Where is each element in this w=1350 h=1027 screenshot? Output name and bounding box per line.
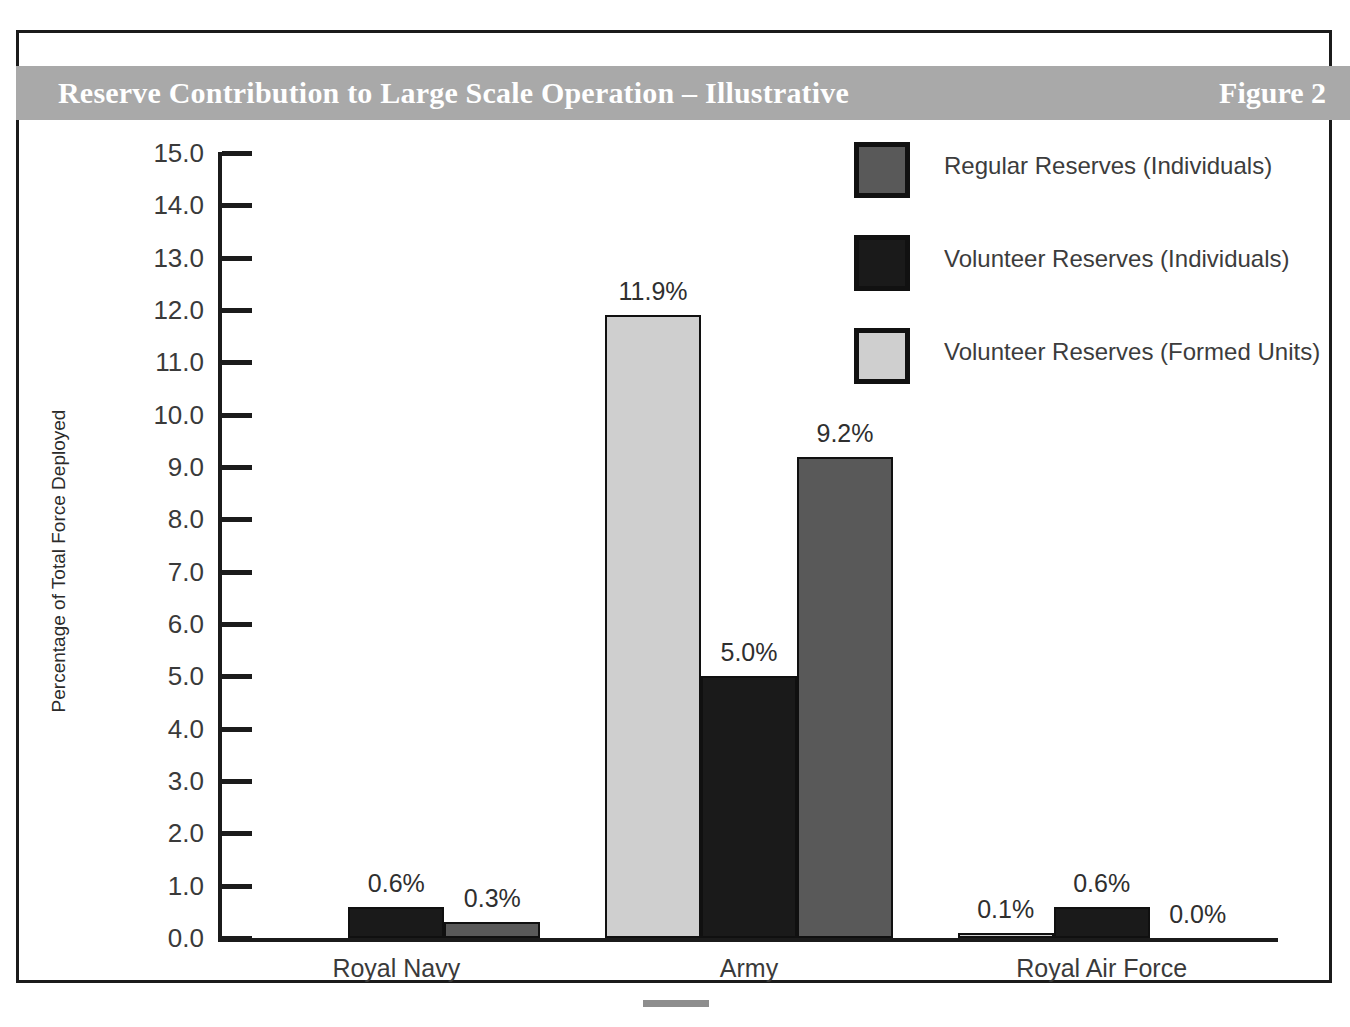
legend-label: Volunteer Reserves (Individuals) xyxy=(944,245,1290,273)
y-axis-tick-mark xyxy=(222,674,252,679)
y-axis-tick-mark xyxy=(222,308,252,313)
y-axis-tick-label: 7.0 xyxy=(168,557,204,588)
bar xyxy=(444,922,540,938)
bar xyxy=(1054,907,1150,938)
y-axis-tick-label: 5.0 xyxy=(168,661,204,692)
y-axis-title: Percentage of Total Force Deployed xyxy=(48,281,70,841)
y-axis-tick-mark xyxy=(222,936,252,941)
y-axis-tick-mark xyxy=(222,465,252,470)
page-bottom-mark xyxy=(643,1000,709,1007)
figure-title: Reserve Contribution to Large Scale Oper… xyxy=(58,76,849,110)
y-axis-tick-mark xyxy=(222,360,252,365)
x-axis-category-label: Royal Navy xyxy=(220,954,573,983)
y-axis-line xyxy=(218,152,222,942)
x-axis-category-label: Royal Air Force xyxy=(925,954,1278,983)
y-axis-tick-mark xyxy=(222,622,252,627)
bar xyxy=(605,315,701,938)
bar xyxy=(701,676,797,938)
bar-value-label: 0.6% xyxy=(1042,869,1162,898)
legend-item: Volunteer Reserves (Formed Units) xyxy=(854,324,1324,417)
figure-title-bar: Reserve Contribution to Large Scale Oper… xyxy=(16,66,1350,120)
y-axis-tick-mark xyxy=(222,151,252,156)
chart-legend: Regular Reserves (Individuals)Volunteer … xyxy=(854,138,1324,417)
bar-value-label: 11.9% xyxy=(593,277,713,306)
bar-value-label: 0.1% xyxy=(946,895,1066,924)
y-axis-tick-label: 3.0 xyxy=(168,766,204,797)
y-axis-tick-mark xyxy=(222,727,252,732)
bar-value-label: 9.2% xyxy=(785,419,905,448)
legend-label: Volunteer Reserves (Formed Units) xyxy=(944,338,1320,366)
y-axis-tick-label: 14.0 xyxy=(153,190,204,221)
y-axis-tick-mark xyxy=(222,413,252,418)
y-axis-tick-mark xyxy=(222,517,252,522)
y-axis-tick-label: 9.0 xyxy=(168,452,204,483)
y-axis-tick-label: 11.0 xyxy=(155,347,204,378)
x-axis-line xyxy=(218,938,1278,942)
legend-swatch-icon xyxy=(854,328,910,384)
y-axis-tick-label: 6.0 xyxy=(168,609,204,640)
legend-item: Regular Reserves (Individuals) xyxy=(854,138,1324,231)
figure-number-label: Figure 2 xyxy=(1219,76,1326,110)
y-axis-tick-mark xyxy=(222,831,252,836)
bar xyxy=(797,457,893,938)
y-axis-tick-mark xyxy=(222,779,252,784)
y-axis-tick-mark xyxy=(222,256,252,261)
y-axis-tick-label: 2.0 xyxy=(168,818,204,849)
legend-item: Volunteer Reserves (Individuals) xyxy=(854,231,1324,324)
legend-swatch-icon xyxy=(854,142,910,198)
y-axis-tick-mark xyxy=(222,884,252,889)
legend-swatch-icon xyxy=(854,235,910,291)
y-axis-tick-label: 1.0 xyxy=(168,871,204,902)
y-axis-tick-mark xyxy=(222,203,252,208)
y-axis-tick-label: 15.0 xyxy=(153,138,204,169)
legend-label: Regular Reserves (Individuals) xyxy=(944,152,1272,180)
y-axis-tick-label: 4.0 xyxy=(168,714,204,745)
chart-plot-area: Percentage of Total Force Deployed 15.01… xyxy=(16,120,1332,983)
y-axis-tick-label: 12.0 xyxy=(153,295,204,326)
y-axis-tick-label: 8.0 xyxy=(168,504,204,535)
bar xyxy=(348,907,444,938)
y-axis-tick-label: 0.0 xyxy=(168,923,204,954)
x-axis-category-label: Army xyxy=(573,954,926,983)
y-axis-tick-label: 10.0 xyxy=(153,400,204,431)
bar-value-label: 0.3% xyxy=(432,884,552,913)
y-axis-tick-label: 13.0 xyxy=(153,243,204,274)
bar xyxy=(958,933,1054,938)
bar-value-label: 0.0% xyxy=(1138,900,1258,929)
bar-value-label: 5.0% xyxy=(689,638,809,667)
y-axis-tick-mark xyxy=(222,570,252,575)
